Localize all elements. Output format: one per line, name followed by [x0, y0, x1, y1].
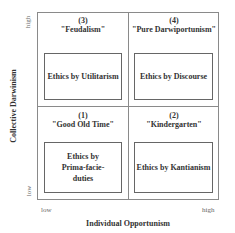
- horizontal-divider: [37, 106, 219, 107]
- ethics-label: Ethics by Prima-facie-duties: [59, 151, 107, 184]
- quadrant-number: (2): [129, 111, 219, 120]
- ethics-label: Ethics by Discourse: [140, 71, 207, 82]
- quadrant-3-header: (3) "Feudalism": [38, 16, 128, 34]
- y-axis-high-tick: high: [24, 16, 32, 28]
- quadrant-4-header: (4) "Pure Darwiportunism": [129, 16, 219, 34]
- quadrant-number: (1): [38, 111, 128, 120]
- x-axis-low-tick: low: [41, 206, 52, 214]
- quadrant-name: "Good Old Time": [38, 120, 128, 129]
- quadrant-1-ethics-box: Ethics by Prima-facie-duties: [44, 142, 122, 193]
- quadrant-name: "Kindergarten": [129, 120, 219, 129]
- x-axis-label: Individual Opportunism: [37, 219, 219, 228]
- quadrant-number: (3): [38, 16, 128, 25]
- y-axis-low-tick: low: [25, 186, 33, 197]
- quadrant-number: (4): [129, 16, 219, 25]
- quadrant-2-ethics-box: Ethics by Kantianism: [134, 142, 213, 193]
- x-axis-high-tick: high: [202, 206, 214, 214]
- quadrant-3-ethics-box: Ethics by Utilitarism: [44, 53, 122, 100]
- quadrant-name: "Feudalism": [38, 25, 128, 34]
- ethics-label: Ethics by Kantianism: [137, 162, 211, 173]
- y-axis-label: Collective Darwinism: [9, 69, 18, 143]
- quadrant-1-header: (1) "Good Old Time": [38, 111, 128, 129]
- quadrant-4-ethics-box: Ethics by Discourse: [134, 53, 213, 100]
- quadrant-name: "Pure Darwiportunism": [129, 25, 219, 34]
- ethics-label: Ethics by Utilitarism: [47, 71, 118, 82]
- quadrant-2-header: (2) "Kindergarten": [129, 111, 219, 129]
